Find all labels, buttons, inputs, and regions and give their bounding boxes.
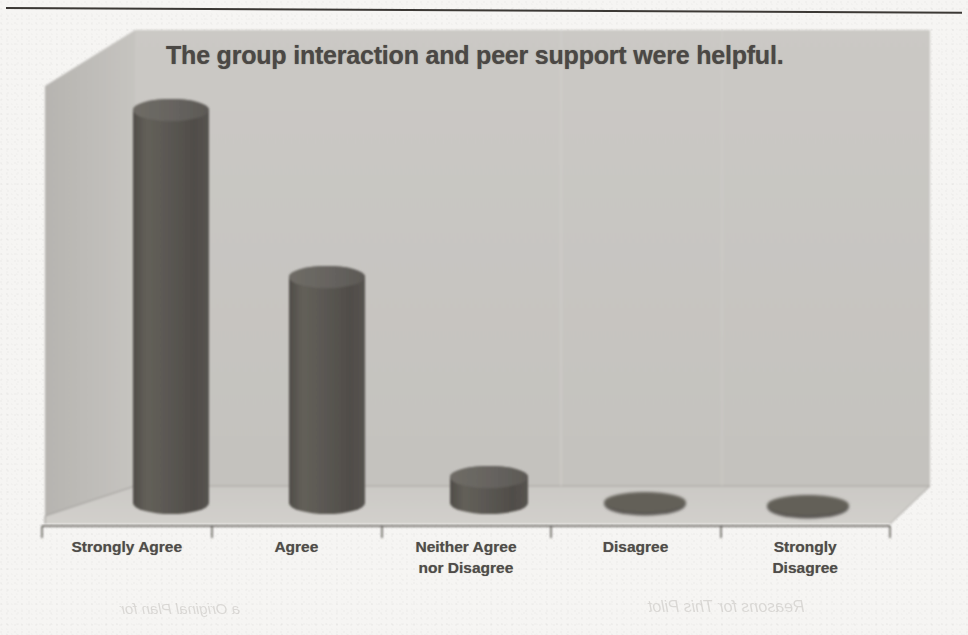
category-label-disagree: Disagree [551, 536, 721, 616]
category-label-line: Disagree [551, 536, 721, 557]
plot-back-wall [135, 30, 930, 486]
chart-title: The group interaction and peer support w… [166, 41, 956, 70]
category-label-neither-agree-nor-disagree: Neither Agree nor Disagree [381, 536, 551, 616]
category-label-line: Neither Agree [381, 536, 551, 557]
category-label-line: Strongly [720, 536, 890, 557]
category-label-agree: Agree [212, 536, 382, 616]
category-label-line: nor Disagree [381, 557, 551, 578]
plot-side-wall [45, 30, 135, 516]
bar-neither-agree-nor-disagree [450, 466, 528, 514]
category-label-line: Disagree [720, 557, 890, 578]
category-axis-labels: Strongly Agree Agree Neither Agree nor D… [42, 536, 890, 616]
category-label-strongly-disagree: Strongly Disagree [720, 536, 890, 616]
category-label-strongly-agree: Strongly Agree [42, 536, 212, 616]
category-label-line: Strongly Agree [42, 536, 212, 557]
scanned-page: a Original Plan for Reasons for This Pil… [0, 0, 968, 635]
bar-disagree [604, 492, 686, 516]
bar-strongly-agree [133, 99, 209, 514]
bar-strongly-disagree [767, 495, 849, 519]
category-label-line: Agree [212, 536, 382, 557]
bar-agree [289, 266, 365, 514]
